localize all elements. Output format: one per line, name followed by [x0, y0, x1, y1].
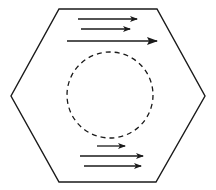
- diagram-canvas: [0, 0, 216, 190]
- bottom-arrow-group: [80, 146, 143, 166]
- hexagon-flow-diagram: [0, 0, 216, 190]
- dashed-circle: [67, 52, 153, 138]
- top-arrow-group: [67, 19, 157, 41]
